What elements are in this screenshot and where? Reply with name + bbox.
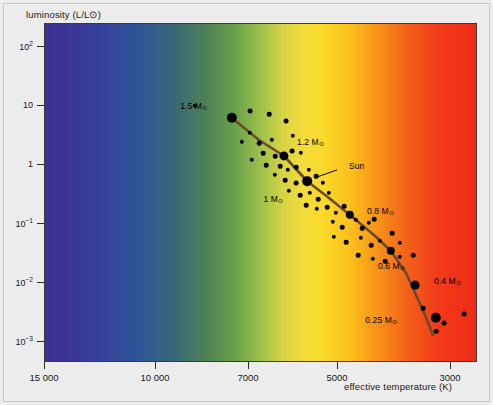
x-tick-mark [450,362,451,369]
x-tick-mark [337,362,338,369]
y-tick-label: 10−3 [15,335,33,347]
y-tick-mark [37,341,44,342]
y-tick-mark [37,46,44,47]
x-tick-label: 5000 [326,372,347,383]
x-tick-mark [155,362,156,369]
x-tick-label: 10 000 [140,372,169,383]
plot-area: 10210110−110−210−3 15 00010 000700050003… [44,23,477,362]
mass-annotation-label: 1.2 M⊙ [297,137,324,147]
y-axis-title: luminosity (L/L⊙) [26,9,101,20]
mass-annotation-label: 0.4 M⊙ [434,276,461,286]
annotations-layer: 1.5 M⊙1.2 M⊙Sun1 M⊙0.8 M⊙0.6 M⊙0.4 M⊙0.2… [44,23,477,362]
hr-diagram-figure: luminosity (L/L⊙) effective temperature … [0,0,493,405]
x-tick-mark [44,362,45,369]
y-tick-mark [37,105,44,106]
y-tick-label: 1 [28,159,33,169]
mass-annotation-label: 0.25 M⊙ [365,315,397,325]
y-tick-mark [37,164,44,165]
y-tick-label: 102 [19,40,33,52]
y-tick-mark [37,223,44,224]
x-tick-label: 15 000 [29,372,58,383]
mass-annotation-label: 0.6 M⊙ [378,261,405,271]
leader-lines [44,23,477,362]
mass-annotation-label: 1.5 M⊙ [180,101,207,111]
y-tick-mark [37,282,44,283]
x-axis-title: effective temperature (K) [344,381,452,392]
mass-annotation-label: 1 M⊙ [263,194,283,204]
mass-annotation-label: Sun [349,161,364,171]
x-tick-mark [248,362,249,369]
annotation-leader-line [314,170,337,178]
y-tick-label: 10 [23,100,33,110]
x-tick-label: 7000 [237,372,258,383]
y-tick-label: 10−2 [15,276,33,288]
mass-annotation-label: 0.8 M⊙ [367,206,394,216]
x-tick-label: 3000 [439,372,460,383]
y-tick-label: 10−1 [15,217,33,229]
